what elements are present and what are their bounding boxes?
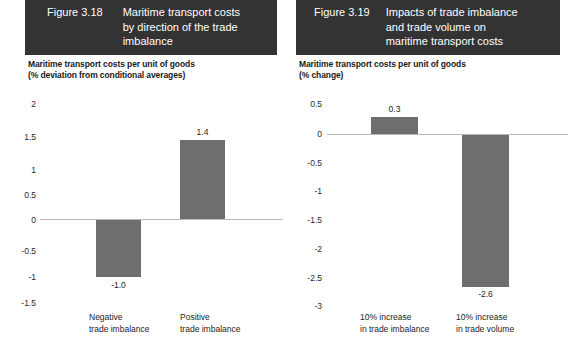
y-axis-tick-label: -3 (288, 301, 322, 311)
bar-value-label: 1.4 (170, 127, 235, 137)
category-label-line: trade imbalance (89, 324, 149, 336)
figures-page: Figure 3.18 Maritime transport costs by … (0, 0, 572, 348)
bar-value-label: 0.3 (362, 104, 427, 114)
y-axis-tick-label: 0.5 (288, 99, 322, 109)
zero-axis-line (327, 134, 568, 135)
bar-value-label: -2.6 (453, 289, 518, 299)
bar-negative-trade-imbalance (96, 220, 141, 277)
y-axis-tick-label: 0 (288, 129, 322, 139)
y-axis-tick-label: -1 (2, 272, 36, 282)
y-axis-tick-label: 2 (2, 99, 36, 109)
category-label-positive-trade-imbalance: Positive trade imbalance (180, 312, 240, 335)
y-axis-tick-label: -1 (288, 186, 322, 196)
figure-panel-3-18: Figure 3.18 Maritime transport costs by … (0, 0, 286, 348)
y-axis-tick-label: 1 (2, 165, 36, 175)
bar-value-label: -1.0 (86, 280, 151, 290)
bar-positive-trade-imbalance (180, 140, 225, 219)
y-axis-tick-label: 0.5 (2, 190, 36, 200)
y-axis-tick-label: -2 (288, 244, 322, 254)
category-label-line: Positive (180, 312, 240, 324)
category-label-line: in trade imbalance (360, 324, 429, 336)
category-label-line: 10% increase (456, 312, 514, 324)
y-axis-tick-label: -2.5 (288, 273, 322, 283)
zero-axis-line (40, 219, 283, 220)
y-axis-tick-label: 0 (2, 215, 36, 225)
category-label-10-percent-increase-trade-imbalance: 10% increase in trade imbalance (360, 312, 429, 335)
bar-chart-3-18: 2 1.5 1 0.5 0 -0.5 -1 -1.5 -1.0 1.4 Nega… (0, 0, 286, 348)
category-label-line: in trade volume (456, 324, 514, 336)
y-axis-tick-label: -1.5 (288, 215, 322, 225)
category-label-line: trade imbalance (180, 324, 240, 336)
category-label-negative-trade-imbalance: Negative trade imbalance (89, 312, 149, 335)
category-label-line: Negative (89, 312, 149, 324)
y-axis-tick-label: -0.5 (2, 246, 36, 256)
bar-chart-3-19: 0.5 0 -0.5 -1 -1.5 -2 -2.5 -3 0.3 -2.6 1… (286, 0, 572, 348)
category-label-line: 10% increase (360, 312, 429, 324)
y-axis-tick-label: -1.5 (2, 298, 36, 308)
y-axis-tick-label: -0.5 (288, 158, 322, 168)
figure-panel-3-19: Figure 3.19 Impacts of trade imbalance a… (286, 0, 572, 348)
y-axis-tick-label: 1.5 (2, 132, 36, 142)
bar-10-percent-increase-trade-volume (462, 135, 509, 287)
bar-10-percent-increase-trade-imbalance (371, 117, 418, 134)
category-label-10-percent-increase-trade-volume: 10% increase in trade volume (456, 312, 514, 335)
